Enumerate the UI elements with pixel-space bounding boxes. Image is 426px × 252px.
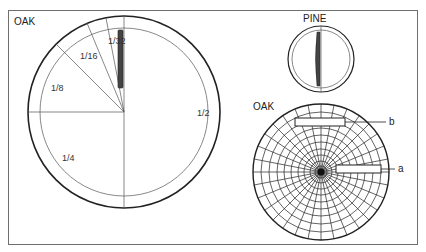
diagram-canvas	[0, 0, 426, 252]
oak-small-title: OAK	[253, 101, 274, 112]
sector-label-1-8: 1/8	[51, 83, 64, 93]
pine-log	[288, 26, 354, 92]
pine-title: PINE	[303, 13, 326, 24]
oak-large-title: OAK	[14, 16, 35, 27]
sector-label-1-4: 1/4	[62, 153, 75, 163]
callout-a: a	[398, 163, 404, 174]
sector-label-1-16: 1/16	[80, 51, 98, 61]
callout-b: b	[389, 116, 395, 127]
sector-label-1-2: 1/2	[197, 108, 210, 118]
oak-small-log	[253, 104, 395, 240]
sector-label-1-32: 1/32	[108, 36, 126, 46]
